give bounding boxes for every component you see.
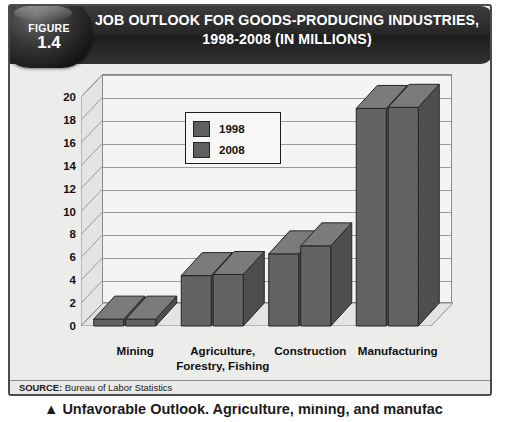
figure-title: JOB OUTLOOK FOR GOODS-PRODUCING INDUSTRI… bbox=[88, 11, 486, 49]
figure-number-badge: FIGURE 1.4 bbox=[8, 4, 92, 68]
figure-card: JOB OUTLOOK FOR GOODS-PRODUCING INDUSTRI… bbox=[8, 4, 492, 396]
badge-figure-number: 1.4 bbox=[10, 33, 88, 53]
category-label-manufacturing: Manufacturing bbox=[328, 343, 468, 358]
source-text: SOURCE: Bureau of Labor Statistics bbox=[19, 382, 172, 393]
legend-swatch-2008 bbox=[193, 142, 210, 158]
source-label: SOURCE: bbox=[19, 382, 62, 393]
page-body-clipped: ▲ Unfavorable Outlook. Agriculture, mini… bbox=[0, 404, 507, 422]
chart-area: 02468101214161820 19982008 MiningAgricul… bbox=[10, 64, 492, 380]
x-axis-category-labels: MiningAgriculture,Forestry, FishingConst… bbox=[32, 343, 478, 381]
legend-item-1998: 1998 bbox=[193, 119, 245, 139]
plot-3d-container: 02468101214161820 19982008 bbox=[32, 74, 478, 339]
source-row: SOURCE: Bureau of Labor Statistics bbox=[10, 380, 492, 396]
legend-label-2008: 2008 bbox=[219, 144, 245, 156]
legend-item-2008: 2008 bbox=[193, 140, 245, 160]
category-label-line: Manufacturing bbox=[328, 343, 468, 358]
legend-label-1998: 1998 bbox=[219, 123, 245, 135]
body-clipped-line: ▲ Unfavorable Outlook. Agriculture, mini… bbox=[44, 404, 443, 417]
legend-swatch-1998 bbox=[193, 121, 210, 137]
chart-legend: 19982008 bbox=[185, 112, 281, 164]
category-label-line: Forestry, Fishing bbox=[153, 358, 293, 373]
figure-title-line-2: 1998-2008 (IN MILLIONS) bbox=[88, 30, 486, 49]
badge-gloss-highlight bbox=[14, 5, 72, 21]
figure-title-line-1: JOB OUTLOOK FOR GOODS-PRODUCING INDUSTRI… bbox=[95, 12, 479, 28]
source-value: Bureau of Labor Statistics bbox=[62, 382, 172, 393]
